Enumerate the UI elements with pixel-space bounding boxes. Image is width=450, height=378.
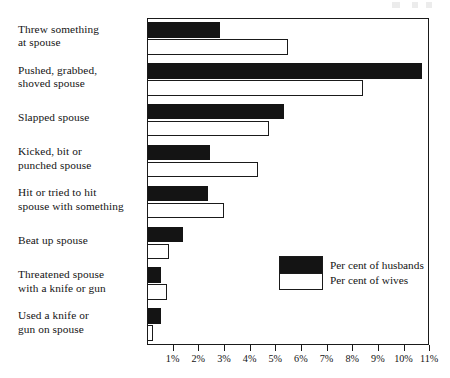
bar-wives-0 bbox=[147, 39, 288, 55]
bar-chart-figure: Threw something at spousePushed, grabbed… bbox=[0, 0, 450, 378]
x-tick-label: 3% bbox=[217, 353, 231, 365]
x-tick bbox=[224, 345, 225, 351]
legend-box bbox=[279, 256, 323, 290]
x-tick bbox=[404, 345, 405, 351]
category-label: Threw something at spouse bbox=[18, 23, 142, 50]
category-label: Threatened spouse with a knife or gun bbox=[18, 268, 142, 295]
x-tick bbox=[429, 345, 430, 351]
bar-wives-3 bbox=[147, 162, 258, 178]
x-tick bbox=[173, 345, 174, 351]
bar-husbands-3 bbox=[147, 145, 210, 161]
category-label: Used a knife or gun on spouse bbox=[18, 309, 142, 336]
x-tick-label: 8% bbox=[345, 353, 359, 365]
x-tick-label: 9% bbox=[371, 353, 385, 365]
x-tick-label: 6% bbox=[294, 353, 308, 365]
x-tick-label: 2% bbox=[192, 353, 206, 365]
bar-husbands-2 bbox=[147, 104, 284, 120]
category-label: Pushed, grabbed, shoved spouse bbox=[18, 64, 142, 91]
x-tick bbox=[352, 345, 353, 351]
category-label-column: Threw something at spousePushed, grabbed… bbox=[0, 18, 142, 338]
legend-label-wives: Per cent of wives bbox=[330, 274, 408, 287]
x-tick-label: 4% bbox=[243, 353, 257, 365]
bar-wives-6 bbox=[147, 284, 167, 300]
x-tick bbox=[378, 345, 379, 351]
x-tick-label: 1% bbox=[166, 353, 180, 365]
category-label: Kicked, bit or punched spouse bbox=[18, 145, 142, 172]
bar-wives-4 bbox=[147, 203, 224, 219]
bar-husbands-6 bbox=[147, 267, 161, 283]
x-tick bbox=[327, 345, 328, 351]
category-label: Slapped spouse bbox=[18, 111, 142, 125]
legend-label-husbands: Per cent of husbands bbox=[330, 259, 424, 272]
bar-wives-7 bbox=[147, 325, 153, 341]
x-axis: 1%2%3%4%5%6%7%8%9%10%11% bbox=[147, 345, 429, 375]
x-tick bbox=[301, 345, 302, 351]
bar-husbands-5 bbox=[147, 227, 183, 243]
plot-area bbox=[147, 18, 429, 345]
x-tick bbox=[275, 345, 276, 351]
x-tick-label: 7% bbox=[320, 353, 334, 365]
category-label: Hit or tried to hit spouse with somethin… bbox=[18, 186, 142, 213]
category-label: Beat up spouse bbox=[18, 234, 142, 248]
x-tick-label: 11% bbox=[420, 353, 438, 365]
bar-wives-5 bbox=[147, 244, 169, 260]
bar-wives-1 bbox=[147, 80, 363, 96]
legend-swatch-wives bbox=[280, 273, 322, 289]
bar-husbands-4 bbox=[147, 186, 208, 202]
x-tick-label: 5% bbox=[268, 353, 282, 365]
bars-layer bbox=[148, 19, 428, 344]
bar-husbands-0 bbox=[147, 22, 220, 38]
bar-husbands-7 bbox=[147, 308, 161, 324]
scan-artifact bbox=[392, 2, 438, 8]
bar-wives-2 bbox=[147, 121, 269, 137]
x-tick bbox=[198, 345, 199, 351]
x-tick bbox=[250, 345, 251, 351]
legend-swatch-husbands bbox=[280, 257, 322, 273]
x-tick-label: 10% bbox=[394, 353, 413, 365]
bar-husbands-1 bbox=[147, 63, 422, 79]
